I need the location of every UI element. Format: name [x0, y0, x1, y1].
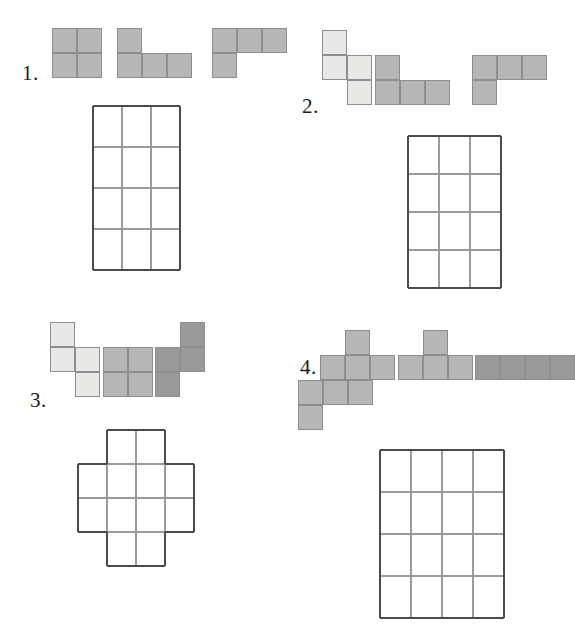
board-border — [473, 449, 504, 451]
board-border — [379, 576, 381, 618]
board-cell[interactable] — [442, 576, 473, 618]
board-grid-4x4-4[interactable] — [380, 450, 504, 618]
board-border — [503, 534, 505, 576]
board-cell[interactable] — [380, 534, 411, 576]
board-cell[interactable] — [442, 450, 473, 492]
board-cell[interactable] — [473, 576, 504, 618]
piece-cell — [370, 355, 395, 380]
board-border — [503, 450, 505, 492]
board-border — [503, 576, 505, 618]
piece-cell — [320, 355, 345, 380]
board-cell[interactable] — [380, 450, 411, 492]
board-border — [380, 617, 411, 619]
piece-cell — [345, 355, 370, 380]
piece-cell — [475, 355, 500, 380]
board-border — [442, 449, 473, 451]
board-cell[interactable] — [473, 492, 504, 534]
board-cell[interactable] — [380, 492, 411, 534]
board-cell[interactable] — [442, 492, 473, 534]
piece-cell — [298, 380, 323, 405]
board-border — [379, 492, 381, 534]
board-border — [379, 450, 381, 492]
piece-cell — [423, 330, 448, 355]
piece-cell — [423, 355, 448, 380]
board-cell[interactable] — [411, 534, 442, 576]
piece-cell — [345, 330, 370, 355]
board-border — [442, 617, 473, 619]
board-border — [379, 534, 381, 576]
piece-cell — [298, 405, 323, 430]
piece-cell — [525, 355, 550, 380]
board-border — [503, 492, 505, 534]
piece-cell — [500, 355, 525, 380]
board-cell[interactable] — [411, 576, 442, 618]
piece-cell — [348, 380, 373, 405]
board-border — [411, 617, 442, 619]
piece-cell — [550, 355, 575, 380]
board-cell[interactable] — [442, 534, 473, 576]
piece-cell — [323, 380, 348, 405]
piece-cell — [398, 355, 423, 380]
board-cell[interactable] — [380, 576, 411, 618]
board-border — [380, 449, 411, 451]
piece-cell — [448, 355, 473, 380]
board-border — [411, 449, 442, 451]
board-cell[interactable] — [473, 450, 504, 492]
board-cell[interactable] — [473, 534, 504, 576]
board-cell[interactable] — [411, 492, 442, 534]
puzzle-number-label-4: 4. — [300, 357, 317, 378]
board-cell[interactable] — [411, 450, 442, 492]
board-border — [473, 617, 504, 619]
